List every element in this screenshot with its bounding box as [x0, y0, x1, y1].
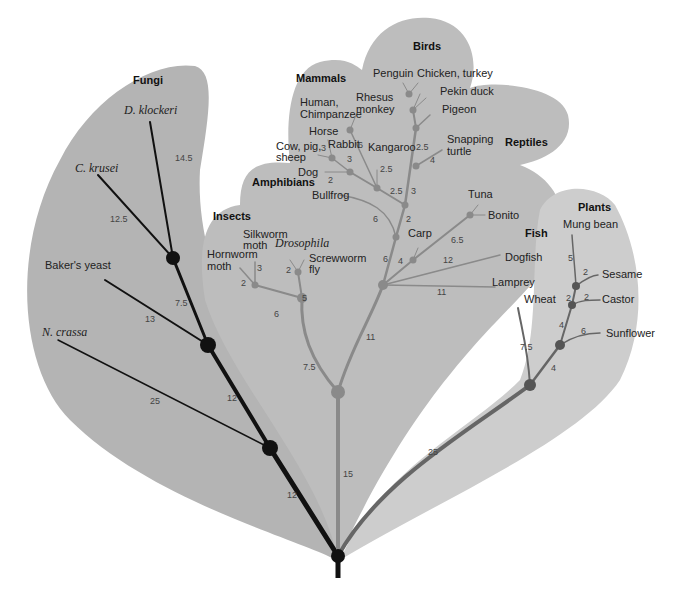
dist-c-krusei: 12.5 [110, 214, 128, 224]
dist-castor-node: 4 [559, 320, 564, 330]
species-dogfish: Dogfish [505, 251, 542, 263]
species-hornworm-2: moth [207, 260, 231, 272]
dist-horse-branch: 6 [358, 140, 363, 150]
species-mung-bean: Mung bean [563, 218, 618, 230]
dist-silkworm: 3 [257, 263, 262, 273]
dist-drosophila: 2 [286, 265, 291, 275]
phylogenetic-tree: Fungi Mammals Birds Reptiles Amphibians … [0, 0, 679, 601]
species-snapping-turtle-2: turtle [447, 145, 471, 157]
species-snapping-turtle: Snapping [447, 133, 494, 145]
species-horse: Horse [309, 125, 338, 137]
species-screwworm-2: fly [309, 263, 321, 275]
species-pigeon: Pigeon [442, 103, 476, 115]
dist-bird-upper: 2.5 [416, 142, 429, 152]
dist-insects-trunk: 7.5 [303, 362, 316, 372]
dist-n-crassa: 25 [150, 396, 160, 406]
dist-mammal-trunk: 2.5 [390, 186, 403, 196]
dist-bird-trunk: 3 [411, 186, 416, 196]
dist-rabbit: 3 [347, 154, 352, 164]
dist-cow: 3 [321, 143, 326, 153]
species-rhesus: Rhesus [356, 91, 394, 103]
species-n-crassa: N. crassa [41, 325, 87, 339]
dist-castor-inner: 2 [566, 293, 571, 303]
dist-tuna-branch: 6.5 [451, 235, 464, 245]
dist-bakers-yeast: 13 [145, 314, 155, 324]
species-c-krusei: C. krusei [75, 161, 118, 175]
dist-kangaroo: 2.5 [380, 164, 393, 174]
dist-dicot: 4 [551, 363, 556, 373]
species-kangaroo: Kangaroo [368, 141, 416, 153]
dist-castor: 2 [584, 292, 589, 302]
species-bakers-yeast: Baker's yeast [45, 259, 111, 271]
species-chicken: Chicken, turkey [417, 67, 493, 79]
dist-mung: 5 [568, 253, 573, 263]
species-sunflower: Sunflower [606, 327, 655, 339]
dist-animal-trunk: 15 [343, 469, 353, 479]
group-label-reptiles: Reptiles [505, 136, 548, 148]
species-rhesus-2: monkey [356, 103, 395, 115]
dist-lamprey: 11 [437, 287, 446, 297]
group-label-insects: Insects [213, 210, 251, 222]
dist-fungi-inner2: 12 [227, 393, 237, 403]
dist-amniote: 2 [406, 214, 411, 224]
dist-dog: 2 [328, 175, 333, 185]
species-d-klockeri: D. klockeri [123, 103, 177, 117]
species-carp: Carp [408, 227, 432, 239]
dist-fungi-root: 12 [287, 490, 297, 500]
group-label-mammals: Mammals [296, 72, 346, 84]
dist-snapping: 4 [430, 155, 435, 165]
dist-dogfish: 12 [443, 255, 453, 265]
group-label-plants: Plants [578, 201, 611, 213]
dist-carp: 4 [398, 256, 403, 266]
species-hornworm: Hornworm [207, 248, 258, 260]
species-pekin-duck: Pekin duck [440, 85, 494, 97]
group-label-fungi: Fungi [133, 74, 163, 86]
species-bonito: Bonito [488, 209, 519, 221]
root [331, 549, 345, 578]
group-label-fish: Fish [525, 227, 548, 239]
dist-sunflower: 6 [581, 326, 586, 336]
species-cow-2: sheep [276, 151, 306, 163]
dist-sesame: 2 [583, 267, 588, 277]
species-castor: Castor [602, 293, 635, 305]
species-penguin: Penguin [373, 67, 413, 79]
dist-vert-trunk: 11 [366, 332, 375, 342]
species-wheat: Wheat [524, 293, 556, 305]
group-label-birds: Birds [413, 40, 441, 52]
species-drosophila: Drosophila [274, 236, 329, 250]
species-lamprey: Lamprey [492, 276, 535, 288]
species-bullfrog: Bullfrog [312, 189, 349, 201]
dist-fly-branch: 5 [302, 293, 307, 303]
species-human: Human, [300, 96, 339, 108]
species-dog: Dog [298, 166, 318, 178]
dist-tetrapod: 6 [383, 254, 388, 264]
species-sesame: Sesame [602, 268, 642, 280]
dist-fungi-inner1: 7.5 [175, 298, 188, 308]
species-tuna: Tuna [468, 188, 494, 200]
species-chimp: Chimpanzee [300, 108, 362, 120]
dist-plant-trunk: 25 [428, 447, 438, 457]
dist-moth-branch: 6 [274, 309, 279, 319]
species-rabbit: Rabbit [328, 138, 360, 150]
dist-bullfrog: 6 [373, 214, 378, 224]
dist-hornworm: 2 [241, 278, 246, 288]
dist-wheat: 7.5 [520, 342, 533, 352]
dist-d-klockeri: 14.5 [175, 153, 193, 163]
root-node [331, 549, 345, 563]
